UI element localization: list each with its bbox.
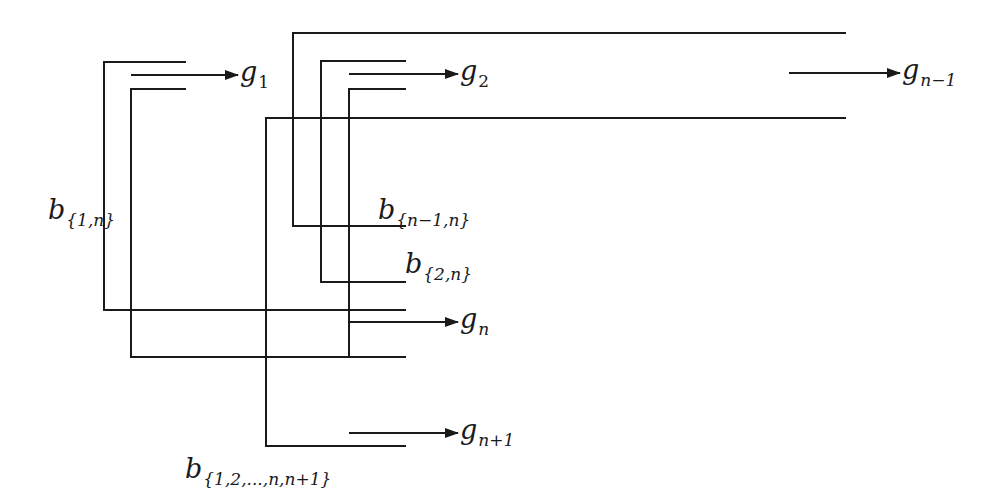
label-bn-1n: b{n−1,n} <box>378 196 470 229</box>
label-g1: g1 <box>240 58 269 91</box>
bus-b1n-outer-wire <box>104 62 405 310</box>
bus-inner-wire-1 <box>131 89 405 357</box>
label-gn: gn <box>460 305 489 338</box>
label-gn+1: gn+1 <box>460 416 514 449</box>
label-b12nn1: b{1,2,...,n,n+1} <box>185 455 331 488</box>
label-b1n: b{1,n} <box>48 196 115 229</box>
label-g2: g2 <box>460 57 489 90</box>
bus-diagram: g1 g2 gn−1 gn gn+1 b{1,n} b{n−1,n} b{2,n… <box>0 0 1002 499</box>
label-gn-1: gn−1 <box>902 56 956 89</box>
label-b2n: b{2,n} <box>405 250 472 283</box>
bus-b2n-wire <box>321 61 405 282</box>
